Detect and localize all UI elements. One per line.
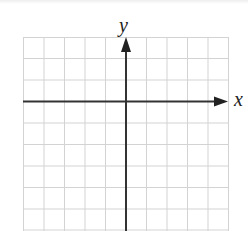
y-axis-label: y [119, 15, 128, 35]
y-axis-arrow-icon [121, 37, 131, 52]
x-axis-arrow-icon [214, 97, 228, 107]
x-axis-label: x [234, 89, 243, 109]
